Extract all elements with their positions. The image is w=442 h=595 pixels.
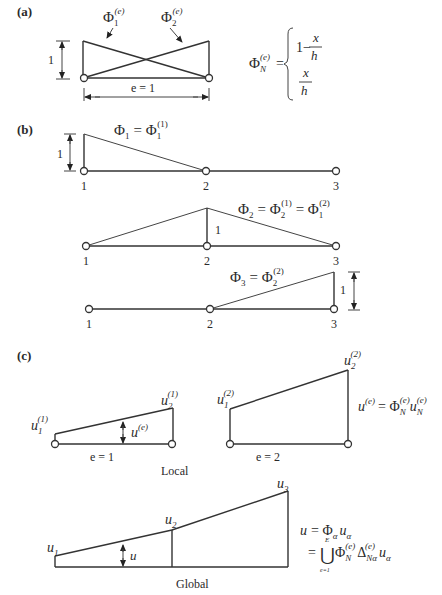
svg-text:E: E	[324, 536, 330, 544]
phi2-pointer-arrow	[170, 28, 182, 42]
svg-text:Φ1= Φ1(1): Φ1= Φ1(1)	[114, 119, 168, 141]
local-caption: Local	[161, 464, 189, 478]
node-right	[206, 75, 213, 82]
svg-text:3: 3	[331, 317, 337, 331]
global-assembly-formula: u= Φαuα = ⋃ E e=1 ΦN(e)ΔNα(e)uα	[300, 523, 391, 573]
svg-text:1: 1	[83, 254, 89, 268]
svg-text:x: x	[312, 30, 319, 45]
svg-text:h: h	[301, 83, 308, 98]
local-element-1: u(e) u1(1) u2(1) e = 1	[31, 389, 178, 464]
phi3-global-row: 1 Φ3= Φ2(2) 1 2 3	[86, 266, 361, 331]
svg-text:1: 1	[215, 223, 221, 237]
phi1-e-label: Φ1(e)	[103, 6, 124, 28]
local-interpolation-formula: u(e)= ΦN(e)uN(e)	[358, 395, 427, 417]
svg-text:e=1: e=1	[320, 567, 330, 573]
panel-a: (a) Φ1(e) Φ2(e) 1 e = 1 ΦN(e)=	[17, 4, 322, 101]
svg-text:u(e): u(e)	[131, 422, 148, 440]
panel-a-label: (a)	[17, 4, 32, 19]
svg-text:1: 1	[57, 147, 63, 161]
svg-text:2: 2	[204, 254, 210, 268]
svg-text:u3: u3	[277, 476, 289, 494]
svg-text:=: =	[308, 545, 316, 560]
local-element-2: u1(2) u2(2) e = 2	[217, 349, 361, 464]
svg-text:u1(1): u1(1)	[31, 414, 48, 436]
svg-text:u2(2): u2(2)	[344, 349, 361, 371]
svg-text:ΦN(e)ΔNα(e)uα: ΦN(e)ΔNα(e)uα	[335, 541, 391, 563]
svg-text:Φ2= Φ2(1)= Φ1(2): Φ2= Φ2(1)= Φ1(2)	[238, 198, 330, 220]
height-label: 1	[48, 53, 54, 67]
svg-text:u: u	[130, 548, 137, 563]
svg-text:ΦN(e)=: ΦN(e)=	[249, 52, 284, 74]
length-label: e = 1	[131, 81, 155, 95]
svg-text:u1: u1	[47, 540, 59, 558]
svg-text:3: 3	[333, 179, 339, 193]
svg-text:Φ3= Φ2(2): Φ3= Φ2(2)	[230, 266, 284, 288]
svg-text:1−: 1−	[296, 40, 311, 55]
panel-c: (c) u(e) u1(1) u2(1) e = 1 u1(2)	[17, 348, 427, 591]
phi1-pointer-arrow	[107, 28, 113, 38]
svg-text:x: x	[302, 65, 309, 80]
svg-text:e = 1: e = 1	[90, 450, 114, 464]
svg-text:2: 2	[207, 317, 213, 331]
svg-text:3: 3	[333, 254, 339, 268]
svg-text:1: 1	[340, 283, 346, 297]
svg-text:1: 1	[86, 317, 92, 331]
svg-text:h: h	[311, 48, 318, 63]
shape-function-formula: ΦN(e)= 1− x h x h	[249, 28, 322, 100]
global-solution: u u1 u2 u3 Global	[47, 476, 289, 591]
panel-b: (b) 1 Φ1= Φ1(1) 1 2 3	[17, 119, 360, 331]
svg-text:⋃: ⋃	[320, 545, 335, 565]
svg-text:u2(1): u2(1)	[161, 389, 178, 411]
svg-text:1: 1	[81, 179, 87, 193]
svg-text:Global: Global	[176, 577, 209, 591]
panel-c-label: (c)	[17, 348, 31, 363]
phi1-global-row: 1 Φ1= Φ1(1) 1 2 3	[57, 119, 340, 193]
panel-b-label: (b)	[17, 122, 33, 137]
node-left	[81, 75, 88, 82]
svg-text:u1(2): u1(2)	[217, 388, 234, 410]
svg-text:u2: u2	[165, 512, 177, 530]
phi2-global-row: 1 Φ2= Φ2(1)= Φ1(2) 1 2 3	[83, 198, 340, 268]
svg-text:2: 2	[203, 179, 209, 193]
finite-element-diagram: (a) Φ1(e) Φ2(e) 1 e = 1 ΦN(e)=	[0, 0, 442, 595]
phi2-e-label: Φ2(e)	[161, 6, 182, 28]
svg-text:e = 2: e = 2	[256, 450, 280, 464]
